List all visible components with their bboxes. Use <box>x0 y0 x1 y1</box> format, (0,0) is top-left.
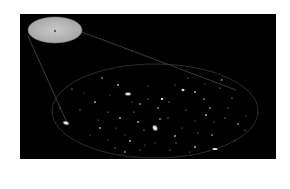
star-point <box>147 98 148 99</box>
star-point <box>107 139 108 140</box>
deep-field-ellipse <box>52 64 258 158</box>
star-point <box>181 127 182 128</box>
star-point <box>109 94 110 95</box>
galaxy-blob <box>62 120 71 127</box>
star-point <box>167 117 168 118</box>
star-point <box>97 119 98 120</box>
star-point <box>185 109 186 110</box>
star-point <box>159 118 161 120</box>
star-point <box>174 135 176 137</box>
star-point <box>144 144 145 145</box>
star-point <box>234 139 235 140</box>
star-point <box>139 149 140 150</box>
star-point <box>245 115 246 116</box>
star-point <box>169 149 170 150</box>
star-point <box>124 134 125 135</box>
star-point <box>99 127 101 129</box>
star-point <box>219 87 220 88</box>
star-point <box>209 107 211 109</box>
star-point <box>101 77 103 79</box>
star-point <box>71 88 72 89</box>
star-point <box>205 114 207 116</box>
galaxy-blob <box>124 92 132 96</box>
star-point <box>237 123 239 125</box>
galaxy-blob <box>160 98 164 101</box>
star-point <box>194 91 196 93</box>
star-point <box>204 83 205 84</box>
star-point <box>133 111 134 112</box>
star-point <box>187 77 188 78</box>
star-point <box>244 129 245 130</box>
star-point <box>131 101 132 102</box>
star-point <box>221 79 223 81</box>
zoom-connector-line <box>28 36 68 125</box>
star-point <box>139 103 141 105</box>
star-point <box>157 107 159 109</box>
star-point <box>147 85 148 86</box>
star-point <box>124 151 126 153</box>
star-point <box>117 84 119 86</box>
star-point <box>174 84 175 85</box>
star-point <box>227 107 228 108</box>
star-point <box>143 129 144 130</box>
star-point <box>154 142 155 143</box>
star-point <box>129 140 131 142</box>
galaxy-blob <box>212 147 219 150</box>
star-point <box>114 147 115 148</box>
star-point <box>94 101 96 103</box>
zoom-connector-line <box>82 32 236 90</box>
star-point <box>175 142 176 143</box>
star-point <box>119 117 121 119</box>
star-point <box>203 98 205 100</box>
star-point <box>83 92 84 93</box>
star-point <box>107 111 108 112</box>
galaxy-blob <box>150 123 159 133</box>
galaxy-blob <box>181 88 185 92</box>
star-point <box>194 120 195 121</box>
star-point <box>168 101 169 102</box>
star-point <box>194 146 196 148</box>
star-point <box>115 127 116 128</box>
star-point <box>79 109 80 110</box>
star-point <box>89 134 90 135</box>
star-point <box>189 151 190 152</box>
star-point <box>137 121 139 123</box>
star-point <box>59 107 60 108</box>
star-point <box>231 97 232 98</box>
galaxy-zoom-diagram <box>0 0 290 189</box>
star-point <box>213 121 214 122</box>
star-point <box>211 134 213 136</box>
inset-target-dot <box>54 30 56 32</box>
star-point <box>197 132 198 133</box>
star-point <box>224 117 225 118</box>
